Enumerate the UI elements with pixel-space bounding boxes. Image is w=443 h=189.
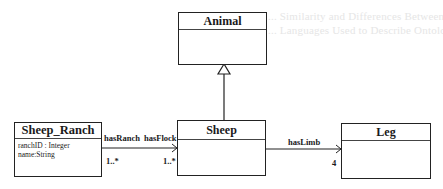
class-sheep[interactable]: Sheep — [177, 120, 266, 176]
role-label-has-limb: hasLimb — [288, 137, 320, 147]
multiplicity-target: 1..* — [163, 156, 176, 166]
class-name: Animal — [179, 13, 266, 30]
class-name: Leg — [342, 124, 430, 141]
role-label-has-flock: hasFlock — [144, 133, 177, 143]
generalization-arrowhead-icon — [218, 64, 230, 74]
class-name: Sheep_Ranch — [15, 123, 101, 139]
attribute-compartment — [179, 30, 266, 32]
class-leg[interactable]: Leg — [341, 123, 431, 179]
attribute: name:String — [18, 150, 101, 159]
attribute-compartment: ranchID : Integer name:String — [15, 139, 101, 159]
attribute-compartment — [342, 141, 430, 143]
class-animal[interactable]: Animal — [178, 12, 267, 65]
attribute: ranchID : Integer — [18, 141, 101, 150]
attribute-compartment — [178, 140, 265, 142]
multiplicity-source: 1..* — [106, 156, 119, 166]
role-label-has-ranch: hasRanch — [104, 133, 140, 143]
class-name: Sheep — [178, 121, 265, 140]
multiplicity-leg: 4 — [332, 158, 336, 168]
class-sheep-ranch[interactable]: Sheep_Ranch ranchID : Integer name:Strin… — [14, 122, 102, 177]
